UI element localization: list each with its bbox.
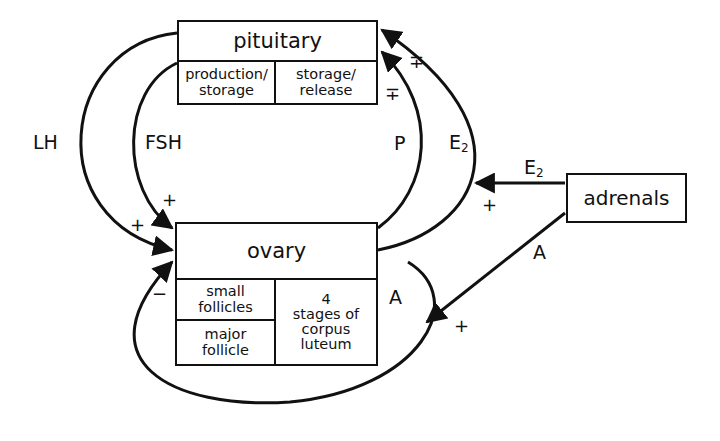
e2-ovary-label: E2 [449,133,469,154]
e2-ovary-sign: ∓ [409,53,424,71]
adrenals-box: adrenals [566,173,687,223]
a-adrenal-label: A [533,243,546,262]
e2-ovary-label-sub: 2 [461,141,469,155]
lh-label: LH [33,133,58,152]
ovary-small-follicles: small follicles [177,280,276,321]
lh-sign: + [130,216,145,234]
adrenals-title: adrenals [584,186,670,210]
e2-adrenal-label-sub: 2 [536,166,544,180]
p-sign: ∓ [385,85,400,103]
ovary-loop-sign: − [152,285,167,303]
pituitary-storage-release: storage/ release [276,62,376,103]
e2-adrenal-sign: + [482,196,497,214]
a-ovary-label: A [389,288,402,307]
ovary-title: ovary [247,239,306,263]
e2-adrenal-label-text: E [524,156,536,178]
pituitary-compartments: production/ storage storage/ release [177,60,378,105]
e2-adrenal-label: E2 [524,158,544,179]
e2-ovary-label-text: E [449,131,461,153]
a-adrenal-sign: + [454,317,469,335]
ovary-major-follicle: major follicle [177,321,276,364]
pituitary-title: pituitary [233,29,322,53]
pituitary-box: pituitary [177,20,378,62]
ovary-box: ovary [175,222,378,280]
ovary-compartments: small follicles major follicle 4 stages … [175,278,378,366]
fsh-label: FSH [145,133,182,152]
fsh-sign: + [162,191,177,209]
pituitary-production-storage: production/ storage [179,62,276,103]
a-adrenal-arrow [427,213,565,322]
p-label: P [394,134,405,153]
ovary-corpus-luteum: 4 stages of corpus luteum [276,280,376,364]
